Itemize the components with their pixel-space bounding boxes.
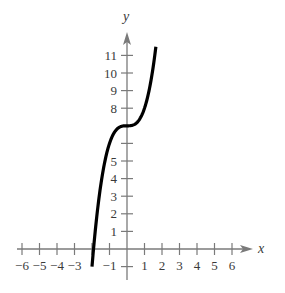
x-tick-label: 2 — [159, 258, 166, 273]
x-tick-label: 4 — [194, 258, 201, 273]
y-tick-label: 3 — [111, 189, 118, 204]
y-tick-label: 9 — [111, 83, 118, 98]
x-tick-label: 1 — [141, 258, 148, 273]
y-tick-label: 1 — [111, 224, 118, 239]
y-tick-label: 5 — [111, 154, 118, 169]
y-tick-label: 11 — [104, 48, 117, 63]
x-axis-label: x — [257, 241, 265, 256]
x-tick-label: −1 — [103, 258, 117, 273]
y-tick-label: 4 — [111, 171, 118, 186]
y-tick-label: 10 — [104, 66, 117, 81]
x-tick-label: −6 — [15, 258, 29, 273]
x-tick-label: −3 — [68, 258, 82, 273]
function-curve — [92, 47, 156, 267]
axes — [17, 32, 253, 280]
y-axis-label: y — [121, 9, 130, 24]
x-tick-label: 5 — [211, 258, 218, 273]
x-tick-label: 6 — [229, 258, 236, 273]
x-tick-label: 3 — [176, 258, 183, 273]
x-tick-label: −5 — [33, 258, 47, 273]
x-tick-label: −4 — [50, 258, 64, 273]
y-tick-label: 2 — [111, 206, 118, 221]
cubic-function-graph: −6−5−4−3−112345612345891011 x y — [0, 0, 285, 293]
y-tick-label: 8 — [111, 101, 118, 116]
